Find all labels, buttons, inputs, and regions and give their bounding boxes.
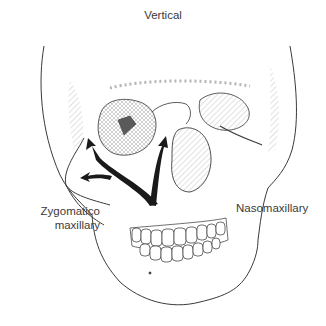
right-orbit — [199, 93, 262, 145]
label-nasomaxillary: Nasomaxillary — [236, 201, 308, 215]
left-orbit-fracture — [98, 99, 156, 155]
nasal-bridge — [152, 102, 191, 124]
teeth — [130, 218, 228, 262]
label-zygomaticomaxillary-line2: maxillary — [14, 218, 100, 232]
skull-illustration — [0, 0, 326, 326]
label-zygomaticomaxillary-line1: Zygomatico — [14, 204, 100, 218]
nasal-cavity — [172, 128, 211, 192]
nasomaxillary-arrow — [150, 136, 168, 206]
zygomaticomaxillary-lateral-arrow — [80, 172, 112, 182]
label-zygomaticomaxillary: Zygomatico maxillary — [14, 204, 100, 232]
label-vertical: Vertical — [0, 8, 326, 22]
